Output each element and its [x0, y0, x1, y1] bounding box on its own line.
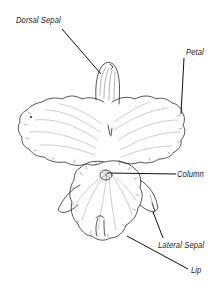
column-drawing — [100, 170, 112, 180]
left-petal-drawing — [18, 96, 104, 165]
lateral-sepal-leader — [153, 212, 163, 238]
column-leader — [107, 173, 176, 174]
label-petal: Petal — [186, 47, 204, 57]
label-column: Column — [177, 169, 204, 179]
label-lip: Lip — [191, 265, 201, 275]
dorsal-sepal-drawing — [96, 62, 120, 104]
leader-lines — [62, 29, 188, 269]
label-dorsal-sepal: Dorsal Sepal — [16, 15, 61, 25]
right-petal-drawing — [108, 96, 185, 164]
orchid-anatomy-diagram: Dorsal Sepal Petal Column Lateral Sepal … — [0, 0, 217, 290]
label-lateral-sepal: Lateral Sepal — [158, 240, 204, 250]
petal-leader — [181, 58, 184, 114]
lateral-sepals-drawing — [58, 180, 158, 213]
dorsal-sepal-leader — [62, 29, 101, 74]
